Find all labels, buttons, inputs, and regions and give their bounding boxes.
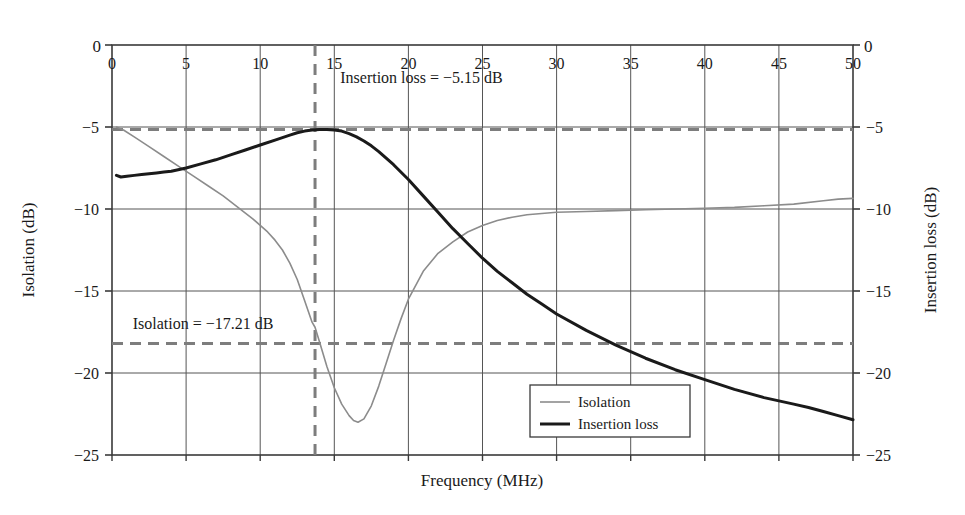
top-left-zero-label: 0 bbox=[93, 37, 102, 56]
y-left-tick-label: −15 bbox=[74, 283, 99, 300]
chart-figure: 05101520253035404550 −5−10−15−20−25 −5−1… bbox=[0, 0, 965, 515]
chart-legend: IsolationInsertion loss bbox=[530, 385, 690, 437]
x-tick-label: 5 bbox=[182, 55, 190, 72]
x-tick-label: 10 bbox=[252, 55, 268, 72]
y-axis-left-title: Isolation (dB) bbox=[19, 203, 38, 298]
isolation-annotation: Isolation = −17.21 dB bbox=[133, 315, 274, 332]
x-tick-label: 35 bbox=[623, 55, 639, 72]
x-tick-label: 0 bbox=[108, 55, 116, 72]
x-tick-label: 30 bbox=[549, 55, 565, 72]
x-tick-label: 50 bbox=[845, 55, 861, 72]
y-right-tick-label: −5 bbox=[866, 119, 883, 136]
y-left-tick-label: −20 bbox=[74, 365, 99, 382]
legend-label: Insertion loss bbox=[578, 416, 659, 432]
y-left-tick-label: −5 bbox=[82, 119, 99, 136]
x-tick-label: 45 bbox=[771, 55, 787, 72]
x-axis-title: Frequency (MHz) bbox=[421, 471, 543, 490]
y-right-tick-label: −10 bbox=[866, 201, 891, 218]
x-tick-label: 40 bbox=[697, 55, 713, 72]
y-left-tick-label: −10 bbox=[74, 201, 99, 218]
y-axis-right-title: Insertion loss (dB) bbox=[921, 187, 940, 314]
y-left-tick-label: −25 bbox=[74, 447, 99, 464]
y-right-tick-label: −25 bbox=[866, 447, 891, 464]
frequency-response-chart: 05101520253035404550 −5−10−15−20−25 −5−1… bbox=[0, 0, 965, 515]
legend-label: Isolation bbox=[578, 394, 631, 410]
y-right-tick-label: −20 bbox=[866, 365, 891, 382]
insertion-loss-annotation: Insertion loss = −5.15 dB bbox=[340, 69, 503, 86]
y-right-tick-label: −15 bbox=[866, 283, 891, 300]
top-right-zero-label: 0 bbox=[864, 37, 873, 56]
